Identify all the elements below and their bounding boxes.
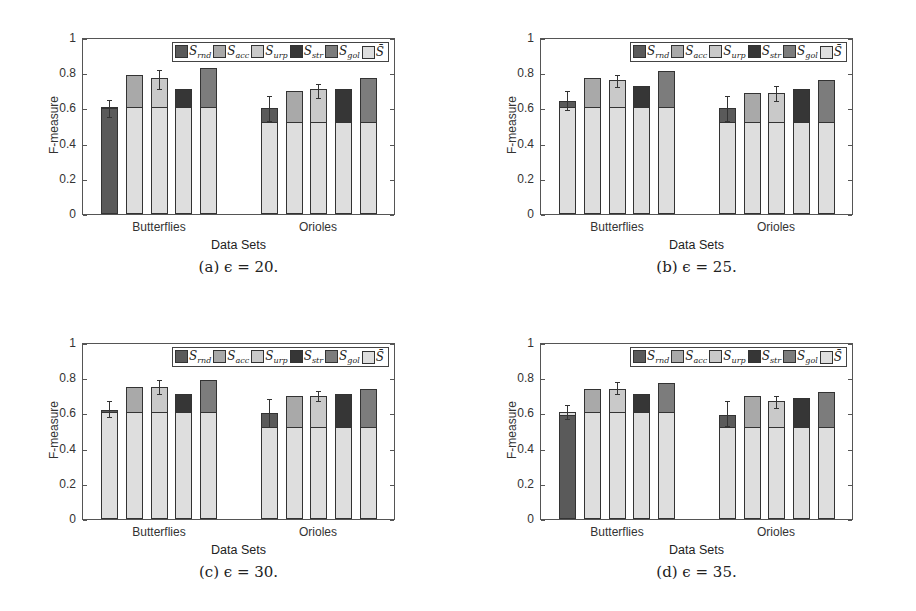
- bar-orioles-rnd[interactable]: [261, 108, 278, 214]
- bar-butterflies-rnd[interactable]: [101, 410, 118, 519]
- segment-sbar: [768, 122, 785, 214]
- bar-butterflies-urp[interactable]: [609, 80, 626, 214]
- legend-swatch: [748, 350, 761, 363]
- error-bar: [318, 84, 319, 98]
- bar-butterflies-gol[interactable]: [658, 71, 675, 214]
- legend-item-urp[interactable]: Surp: [709, 349, 745, 365]
- bar-butterflies-acc[interactable]: [584, 78, 601, 214]
- bar-orioles-urp[interactable]: [310, 396, 327, 519]
- legend-item-urp[interactable]: Surp: [709, 44, 745, 60]
- legend-item-bar[interactable]: S̄: [820, 350, 842, 364]
- y-axis-label: F-measure: [47, 85, 61, 165]
- error-bar: [567, 91, 568, 110]
- legend-item-acc[interactable]: Sacc: [671, 44, 707, 60]
- x-axis-label: Data Sets: [211, 238, 266, 252]
- bar-butterflies-acc[interactable]: [584, 389, 601, 519]
- bar-orioles-gol[interactable]: [360, 389, 377, 519]
- bar-orioles-str[interactable]: [793, 89, 810, 214]
- segment-acc: [744, 93, 761, 123]
- legend-item-rnd[interactable]: Srnd: [175, 349, 211, 365]
- legend-swatch: [783, 45, 796, 58]
- bar-orioles-rnd[interactable]: [719, 108, 736, 214]
- legend-item-str[interactable]: Sstr: [290, 349, 323, 365]
- legend-item-rnd[interactable]: Srnd: [633, 349, 669, 365]
- legend-item-str[interactable]: Sstr: [748, 349, 781, 365]
- bar-orioles-str[interactable]: [335, 89, 352, 214]
- legend-item-urp[interactable]: Surp: [251, 349, 287, 365]
- legend-item-bar[interactable]: S̄: [362, 350, 384, 364]
- bar-orioles-rnd[interactable]: [261, 413, 278, 519]
- legend-swatch: [748, 45, 761, 58]
- bar-orioles-acc[interactable]: [744, 93, 761, 214]
- error-cap-bottom: [565, 110, 570, 111]
- y-tick-mark: [83, 344, 87, 345]
- bar-orioles-acc[interactable]: [286, 396, 303, 519]
- segment-sbar: [818, 122, 835, 214]
- legend-item-bar[interactable]: S̄: [820, 45, 842, 59]
- segment-acc: [744, 396, 761, 428]
- bar-orioles-gol[interactable]: [818, 80, 835, 214]
- bar-orioles-gol[interactable]: [360, 78, 377, 214]
- legend-subscript: urp: [732, 356, 746, 365]
- bar-orioles-urp[interactable]: [310, 89, 327, 214]
- bar-orioles-acc[interactable]: [744, 396, 761, 519]
- y-tick-mark: [541, 39, 545, 40]
- y-tick-mark-right: [848, 450, 852, 451]
- bar-orioles-urp[interactable]: [768, 93, 785, 214]
- legend-item-str[interactable]: Sstr: [290, 44, 323, 60]
- legend-item-gol[interactable]: Sgol: [325, 349, 360, 365]
- bar-butterflies-str[interactable]: [175, 89, 192, 214]
- segment-sbar: [151, 107, 168, 214]
- legend-subscript: gol: [347, 356, 360, 365]
- segment-acc: [286, 91, 303, 123]
- bar-orioles-acc[interactable]: [286, 91, 303, 214]
- legend-item-rnd[interactable]: Srnd: [633, 44, 669, 60]
- error-cap-top: [774, 396, 779, 397]
- y-tick-label: 0.8: [52, 66, 76, 80]
- segment-acc: [584, 78, 601, 107]
- bar-butterflies-str[interactable]: [633, 394, 650, 519]
- bar-butterflies-gol[interactable]: [658, 383, 675, 519]
- legend-item-gol[interactable]: Sgol: [325, 44, 360, 60]
- legend-item-gol[interactable]: Sgol: [783, 349, 818, 365]
- bar-butterflies-gol[interactable]: [200, 68, 217, 214]
- x-category-label: Orioles: [299, 525, 337, 539]
- bar-orioles-urp[interactable]: [768, 401, 785, 519]
- legend-item-rnd[interactable]: Srnd: [175, 44, 211, 60]
- bar-butterflies-str[interactable]: [633, 86, 650, 214]
- bar-butterflies-urp[interactable]: [609, 389, 626, 519]
- legend-swatch: [820, 351, 833, 364]
- bar-orioles-str[interactable]: [793, 398, 810, 519]
- bar-butterflies-rnd[interactable]: [559, 101, 576, 214]
- legend-item-acc[interactable]: Sacc: [213, 349, 249, 365]
- legend-item-str[interactable]: Sstr: [748, 44, 781, 60]
- figure-caption: (a) ϵ = 20.: [199, 258, 279, 276]
- error-cap-top: [267, 399, 272, 400]
- bar-butterflies-rnd[interactable]: [101, 107, 118, 214]
- bar-butterflies-gol[interactable]: [200, 380, 217, 519]
- legend-item-acc[interactable]: Sacc: [671, 349, 707, 365]
- bar-butterflies-acc[interactable]: [126, 387, 143, 519]
- legend-item-urp[interactable]: Surp: [251, 44, 287, 60]
- bar-butterflies-rnd[interactable]: [559, 412, 576, 519]
- bar-butterflies-str[interactable]: [175, 394, 192, 519]
- legend-item-gol[interactable]: Sgol: [783, 44, 818, 60]
- error-cap-top: [267, 96, 272, 97]
- segment-gol: [200, 68, 217, 108]
- legend-label: Sgol: [339, 44, 360, 60]
- segment-sbar: [744, 427, 761, 519]
- legend-swatch: [633, 45, 646, 58]
- legend-swatch: [213, 350, 226, 363]
- bar-butterflies-acc[interactable]: [126, 75, 143, 214]
- bar-orioles-rnd[interactable]: [719, 415, 736, 519]
- segment-sbar: [126, 107, 143, 214]
- bar-orioles-gol[interactable]: [818, 392, 835, 519]
- error-cap-bottom: [774, 101, 779, 102]
- bar-butterflies-urp[interactable]: [151, 387, 168, 519]
- legend-label: Sacc: [227, 44, 249, 60]
- segment-str: [175, 89, 192, 108]
- bar-butterflies-urp[interactable]: [151, 78, 168, 214]
- legend-item-bar[interactable]: S̄: [362, 45, 384, 59]
- bar-orioles-str[interactable]: [335, 394, 352, 519]
- legend-item-acc[interactable]: Sacc: [213, 44, 249, 60]
